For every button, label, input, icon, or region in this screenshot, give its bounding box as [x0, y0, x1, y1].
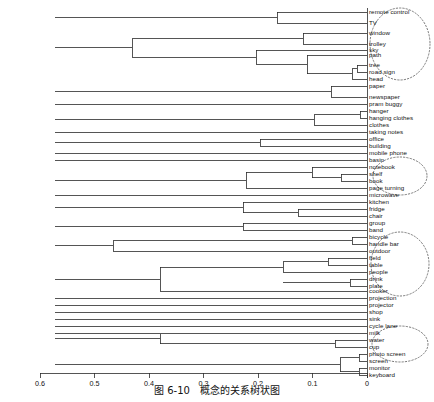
dendrogram-links — [55, 12, 367, 375]
leaf-label-paper: paper — [369, 83, 385, 89]
leaf-label-tv: TV — [369, 20, 377, 26]
leaf-label-path: path — [369, 52, 381, 58]
leaf-label-keyboard: keyboard — [369, 372, 395, 378]
figure-container: remote control TV window trolley sky pat… — [0, 0, 434, 402]
leaf-label-window: window — [369, 30, 390, 36]
figure-title: 概念的关系树状图 — [200, 385, 280, 396]
figure-number: 图 6-10 — [154, 385, 190, 396]
x-axis — [40, 373, 367, 378]
figure-caption: 图 6-10概念的关系树状图 — [0, 384, 434, 398]
dendrogram-plot: remote control TV window trolley sky pat… — [0, 0, 434, 381]
leaf-label-remote-control: remote control — [369, 9, 409, 15]
